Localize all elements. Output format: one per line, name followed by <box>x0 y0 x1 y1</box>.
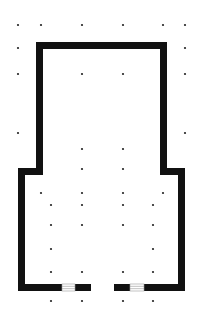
grid-dot <box>81 271 83 273</box>
grid-dot <box>152 248 154 250</box>
window-right <box>130 284 144 291</box>
grid-dot <box>122 204 124 206</box>
wall-bottom-4 <box>144 284 185 291</box>
grid-dot <box>17 73 19 75</box>
grid-dot <box>122 300 124 302</box>
grid-dot <box>81 204 83 206</box>
wall-upper-left <box>36 42 43 175</box>
grid-dot <box>50 300 52 302</box>
grid-dot <box>152 204 154 206</box>
grid-dot <box>81 148 83 150</box>
wall-bottom-2 <box>75 284 91 291</box>
grid-dot <box>122 73 124 75</box>
grid-dot <box>81 73 83 75</box>
grid-dot <box>17 132 19 134</box>
grid-dot <box>184 132 186 134</box>
wall-lower-left <box>18 168 25 291</box>
grid-dot <box>17 47 19 49</box>
grid-dot <box>81 300 83 302</box>
wall-top <box>36 42 167 49</box>
grid-dot <box>122 24 124 26</box>
grid-dot <box>17 24 19 26</box>
grid-dot <box>81 224 83 226</box>
grid-dot <box>184 47 186 49</box>
grid-dot <box>162 24 164 26</box>
grid-dot <box>152 300 154 302</box>
floor-plan <box>0 0 199 324</box>
grid-dot <box>152 224 154 226</box>
grid-dot <box>122 148 124 150</box>
window-left <box>62 284 75 291</box>
wall-bottom-3 <box>114 284 130 291</box>
grid-dot <box>40 24 42 26</box>
grid-dot <box>122 192 124 194</box>
wall-bottom-1 <box>18 284 62 291</box>
grid-dot <box>81 192 83 194</box>
grid-dot <box>50 204 52 206</box>
grid-dot <box>40 192 42 194</box>
grid-dot <box>122 168 124 170</box>
grid-dot <box>162 192 164 194</box>
grid-dot <box>122 271 124 273</box>
grid-dot <box>50 224 52 226</box>
grid-dot <box>81 168 83 170</box>
grid-dot <box>81 24 83 26</box>
grid-dot <box>184 73 186 75</box>
grid-dot <box>50 248 52 250</box>
grid-dot <box>122 224 124 226</box>
grid-dot <box>184 24 186 26</box>
grid-dot <box>152 271 154 273</box>
grid-dot <box>50 271 52 273</box>
wall-lower-right <box>178 168 185 291</box>
wall-upper-right <box>160 42 167 175</box>
